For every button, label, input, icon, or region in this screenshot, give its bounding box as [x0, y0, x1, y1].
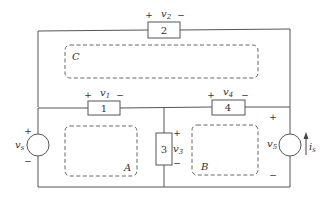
loop-c-label: C	[72, 51, 80, 62]
voltage-source-vs: + vs −	[15, 126, 49, 166]
element-2-voltage: v2	[161, 8, 172, 21]
element-4-minus: −	[241, 90, 249, 100]
current-arrow-up-icon	[304, 132, 309, 155]
current-source-icon	[279, 134, 301, 156]
element-1-label: 1	[101, 103, 107, 114]
element-4-label: 4	[225, 102, 231, 113]
element-1-voltage: v1	[100, 87, 110, 100]
element-3-label: 3	[161, 144, 167, 155]
vs-plus: +	[24, 126, 32, 136]
element-2-label: 2	[161, 25, 167, 36]
loop-c	[65, 45, 258, 78]
voltage-source-icon	[27, 134, 49, 156]
v5-plus: +	[269, 112, 277, 122]
v5-label: v5	[267, 138, 278, 151]
element-1-minus: −	[116, 90, 124, 100]
element-1: 1 + v1 −	[84, 87, 124, 115]
element-3-plus: +	[173, 128, 181, 138]
element-2-minus: −	[177, 10, 185, 20]
is-label: is	[309, 141, 316, 154]
element-3-voltage: v3	[173, 143, 184, 156]
element-1-plus: +	[84, 90, 92, 100]
loop-b-label: B	[200, 161, 208, 172]
element-2: 2 + v2 −	[145, 8, 185, 38]
element-4-plus: +	[207, 90, 215, 100]
element-4-voltage: v4	[223, 86, 233, 99]
element-3-minus: −	[173, 158, 181, 168]
current-source-is: + v5 − is	[267, 112, 316, 180]
vs-minus: −	[24, 156, 32, 166]
loop-a-label: A	[123, 162, 131, 173]
vs-label: vs	[15, 139, 25, 152]
circuit-diagram: 2 + v2 − 1 + v1 − 4 + v4 − 3 + v3 − + vs…	[0, 0, 330, 199]
element-2-plus: +	[145, 10, 153, 20]
element-3: 3 + v3 −	[156, 128, 184, 168]
element-4: 4 + v4 −	[207, 86, 249, 115]
v5-minus: −	[269, 170, 277, 180]
